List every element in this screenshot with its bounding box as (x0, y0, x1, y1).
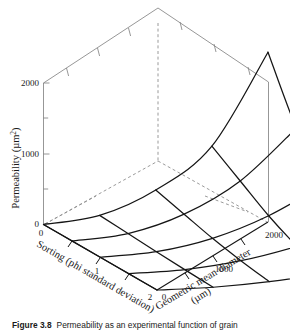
top-back-edge-right (158, 8, 269, 82)
z-axis-title-group: Permeability (µm2) (9, 127, 22, 209)
z-axis-title: Permeability (µm2) (9, 127, 22, 209)
y-tick-label-2000: 2000 (265, 230, 284, 240)
hidden-guide-a (45, 196, 96, 224)
hidden-edges (45, 23, 267, 224)
caption-label: Figure 3.8 (12, 320, 52, 330)
figure-3-8: 2000 1000 0 Permeability (µm2) (0, 0, 290, 333)
z-tick-label-1000: 1000 (21, 149, 40, 159)
hidden-guide-b (205, 196, 248, 212)
figure-caption: Figure 3.8Permeability as an experimenta… (12, 320, 290, 331)
permeability-surface-plot: 2000 1000 0 Permeability (µm2) (0, 0, 290, 333)
mesh-line-diameter-1 (100, 215, 214, 287)
x-axis-title-group: Sorting (phi standard deviation) (35, 238, 157, 316)
axis-frame-back (44, 8, 269, 225)
x-tick-label-0: 0 (39, 228, 44, 238)
mesh-line-sorting-0 (44, 52, 269, 224)
caption-text: Permeability as an experimental function… (57, 320, 238, 330)
z-axis-ticks (44, 83, 50, 224)
mesh-line-sorting-2 (100, 184, 290, 257)
mesh-line-sorting-1 (72, 128, 290, 241)
surface-mesh (44, 52, 291, 290)
y-axis-title: Geometric mean diameter (153, 246, 253, 312)
top-back-edge-left (44, 8, 159, 83)
hidden-base-edge-right (158, 161, 267, 222)
z-tick-label-2000: 2000 (21, 78, 40, 88)
x-axis-title: Sorting (phi standard deviation) (35, 238, 157, 316)
